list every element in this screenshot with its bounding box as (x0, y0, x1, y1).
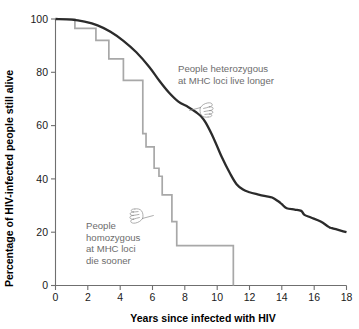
annotation-heterozygous-line-2: at MHC loci live longer (178, 75, 275, 86)
annotation-homozygous-line-1: People (86, 220, 116, 231)
y-tick-label-40: 40 (36, 173, 48, 185)
y-tick-label-20: 20 (36, 226, 48, 238)
x-tick-label-10: 10 (211, 291, 223, 303)
x-tick-label-14: 14 (276, 291, 288, 303)
x-tick-label-8: 8 (182, 291, 188, 303)
x-axis-title: Years since infected with HIV (130, 312, 275, 324)
annotation-homozygous-line-4: die sooner (86, 255, 132, 266)
y-tick-label-0: 0 (42, 279, 48, 291)
y-tick-label-80: 80 (36, 66, 48, 78)
x-tick-label-4: 4 (117, 291, 123, 303)
x-tick-label-0: 0 (53, 291, 59, 303)
annotation-heterozygous-line-1: People heterozygous (178, 63, 268, 74)
x-tick-label-18: 18 (341, 291, 353, 303)
x-tick-label-16: 16 (308, 291, 320, 303)
y-tick-label-60: 60 (36, 119, 48, 131)
pointing-hand-right-icon (130, 209, 153, 223)
annotation-homozygous-line-2: homozygous (86, 232, 141, 243)
annotation-homozygous-line-3: at MHC loci (86, 243, 136, 254)
y-tick-label-100: 100 (30, 13, 48, 25)
annotation-homozygous: People homozygous at MHC loci die sooner (86, 209, 153, 266)
series-line-heterozygous (56, 19, 347, 232)
series-line-homozygous (56, 19, 234, 286)
x-tick-label-6: 6 (150, 291, 156, 303)
y-axis-title: Percentage of HIV-infected people still … (3, 70, 15, 287)
chart-plot-area: Percentage of HIV-infected people still … (0, 0, 359, 329)
x-tick-group: 0 2 4 6 8 10 12 14 16 18 (53, 286, 353, 304)
survival-curve-chart: Percentage of HIV-infected people still … (0, 0, 359, 329)
x-tick-label-12: 12 (244, 291, 256, 303)
y-tick-group: 0 20 40 60 80 100 (30, 13, 55, 291)
x-tick-label-2: 2 (85, 291, 91, 303)
